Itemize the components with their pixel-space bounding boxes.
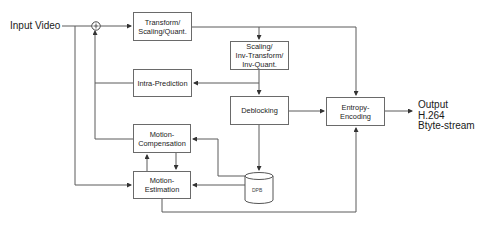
intra-prediction-block: Intra-Prediction [133, 69, 192, 97]
deblocking-block: Deblocking [230, 96, 289, 125]
motion-compensation-block: Motion- Compensation [133, 124, 191, 153]
output-label: Output H.264 Btyte-stream [418, 100, 477, 132]
motion-estimation-block: Motion- Estimation [133, 171, 191, 199]
input-video-label: Input Video [10, 21, 60, 32]
entropy-encoding-block: Entropy- Encoding [326, 97, 385, 126]
dpb-label: DPB [252, 187, 262, 193]
inverse-transform-block: Scaling/ Inv-Transform/ Inv-Quant. [230, 41, 289, 70]
transform-block: Transform/ Scaling/Quant. [133, 12, 192, 41]
